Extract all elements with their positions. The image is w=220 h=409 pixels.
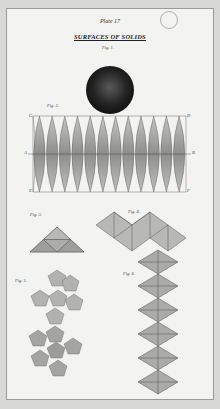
octahedron-net <box>96 212 186 251</box>
tetrahedron-net <box>30 227 84 252</box>
sphere-icon <box>86 66 134 114</box>
icosahedron-net <box>138 250 178 394</box>
dodecahedron-net <box>29 270 83 376</box>
gores-figure <box>28 116 191 192</box>
figures-drawing <box>0 0 220 409</box>
